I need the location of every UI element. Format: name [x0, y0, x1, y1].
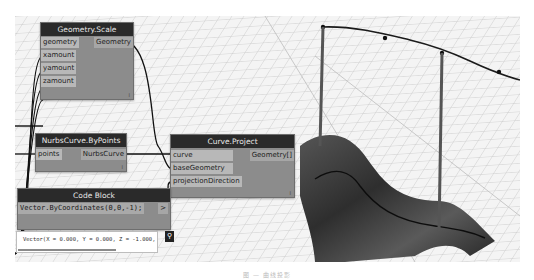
node-title: Code Block: [18, 189, 170, 202]
node-geometry-scale[interactable]: Geometry.Scale geometry xamount yamount …: [40, 22, 134, 100]
preview-value: Vector(X = 0.000, Y = 0.000, Z = -1.000,: [23, 236, 155, 242]
pin-icon[interactable]: ⚲: [165, 231, 174, 242]
preview-scrollbar[interactable]: [18, 249, 116, 251]
output-port-arrow[interactable]: >: [158, 203, 168, 214]
node-nurbscurve-bypoints[interactable]: NurbsCurve.ByPoints points NurbsCurve l: [35, 133, 127, 172]
lacing-indicator[interactable]: l: [290, 190, 291, 196]
node-title: Curve.Project: [171, 135, 294, 148]
input-port-zamount[interactable]: zamount: [41, 76, 76, 87]
node-code-block[interactable]: Code Block Vector.ByCoordinates(0,0,-1);…: [17, 188, 171, 230]
input-port-yamount[interactable]: yamount: [41, 63, 76, 74]
node-preview-bubble[interactable]: Vector(X = 0.000, Y = 0.000, Z = -1.000,: [16, 231, 158, 253]
lacing-indicator[interactable]: l: [122, 164, 123, 170]
node-title: NurbsCurve.ByPoints: [36, 134, 126, 147]
input-port-curve[interactable]: curve: [171, 150, 233, 161]
node-curve-project[interactable]: Curve.Project curve baseGeometry project…: [170, 134, 295, 198]
input-port-geometry[interactable]: geometry: [41, 37, 79, 48]
3d-viewport-canvas[interactable]: Geometry.Scale geometry xamount yamount …: [15, 16, 520, 262]
output-port-nurbscurve[interactable]: NurbsCurve: [81, 149, 126, 160]
output-port-geometry-list[interactable]: Geometry[]: [250, 150, 294, 161]
input-port-projectiondirection[interactable]: projectionDirection: [171, 176, 242, 187]
output-port-geometry[interactable]: Geometry: [94, 37, 133, 48]
figure-caption: 图 — 曲线投影: [0, 270, 534, 279]
input-port-points[interactable]: points: [36, 149, 62, 160]
input-port-xamount[interactable]: xamount: [41, 50, 76, 61]
lacing-indicator[interactable]: l: [129, 92, 130, 98]
code-editor[interactable]: Vector.ByCoordinates(0,0,-1);: [18, 203, 144, 214]
input-port-basegeometry[interactable]: baseGeometry: [171, 163, 233, 174]
node-title: Geometry.Scale: [41, 23, 133, 36]
